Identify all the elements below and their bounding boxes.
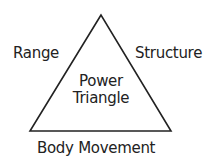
center-label-line2: Triangle <box>68 90 134 107</box>
side-label-right: Structure <box>135 44 202 62</box>
center-label: Power Triangle <box>68 73 134 107</box>
side-label-bottom: Body Movement <box>37 139 155 157</box>
side-label-left: Range <box>13 44 59 62</box>
center-label-line1: Power <box>68 73 134 90</box>
